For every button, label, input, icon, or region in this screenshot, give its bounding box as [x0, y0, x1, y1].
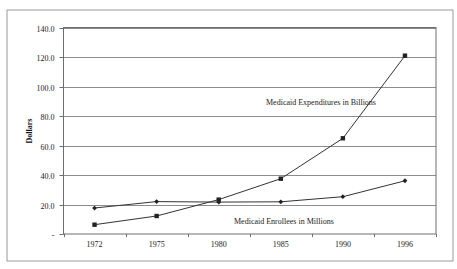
x-tick-label: 1972 — [87, 240, 103, 249]
data-point — [154, 199, 159, 204]
x-axis: 197219751980198519901996 — [65, 234, 437, 249]
y-tick-label: 20.0 — [41, 202, 55, 211]
line-chart: -20.040.060.080.0100.0120.0140.0 1972197… — [0, 0, 457, 269]
y-tick-label: 120.0 — [37, 54, 55, 63]
y-tick-label: 100.0 — [37, 84, 55, 93]
data-point — [92, 206, 97, 211]
y-tick-label: - — [52, 231, 55, 240]
series-expenditures — [92, 53, 407, 226]
series-line — [95, 181, 406, 208]
data-point — [279, 176, 283, 180]
plot-area — [64, 28, 437, 235]
series-label-expenditures: Medicaid Expenditures in Billions — [266, 98, 376, 107]
data-point — [340, 194, 345, 199]
series — [92, 53, 407, 226]
data-point — [92, 223, 96, 227]
data-point — [278, 199, 283, 204]
x-tick-label: 1975 — [149, 240, 165, 249]
data-point — [341, 136, 345, 140]
chart-frame — [7, 10, 453, 261]
gridlines — [64, 29, 437, 206]
x-tick-label: 1990 — [335, 240, 351, 249]
x-tick-label: 1985 — [273, 240, 289, 249]
y-axis: -20.040.060.080.0100.0120.0140.0 — [37, 25, 64, 240]
data-point — [403, 53, 407, 57]
data-point — [154, 214, 158, 218]
y-tick-label: 40.0 — [41, 172, 55, 181]
y-tick-label: 60.0 — [41, 143, 55, 152]
data-point — [403, 178, 408, 183]
series-label-enrollees: Medicaid Enrollees in Millions — [234, 217, 334, 226]
y-axis-title: Dollars — [25, 119, 34, 144]
x-tick-label: 1996 — [397, 240, 413, 249]
y-tick-label: 80.0 — [41, 113, 55, 122]
y-tick-label: 140.0 — [37, 25, 55, 34]
series-line — [95, 56, 406, 225]
x-tick-label: 1980 — [211, 240, 227, 249]
